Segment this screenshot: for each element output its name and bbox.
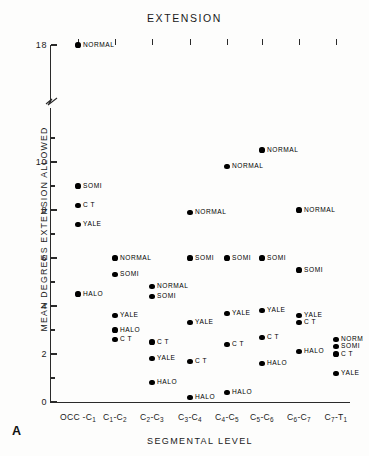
data-point-label: NORMAL <box>157 282 189 289</box>
data-point-label: NORMAL <box>83 41 115 48</box>
data-point-label: C T <box>232 340 244 347</box>
data-point-label: C T <box>304 318 316 325</box>
data-point-label: HALO <box>120 326 140 333</box>
data-point-label: HALO <box>195 393 215 400</box>
data-point-label: HALO <box>232 388 252 395</box>
data-point-marker <box>75 42 80 47</box>
data-point-marker <box>187 320 192 325</box>
y-axis-tick <box>51 353 57 354</box>
plot-area: 024681018 OCC -C1C1-C2C2-C3C3-C4C4-C5C5-… <box>50 38 350 403</box>
page-title: EXTENSION <box>0 12 369 24</box>
data-point-marker <box>187 395 192 400</box>
data-point-marker <box>296 320 301 325</box>
data-point-marker <box>333 371 338 376</box>
data-point-marker <box>149 294 154 299</box>
x-axis-tick-label: C5-C6 <box>250 412 274 422</box>
axis-break-icon <box>45 96 59 108</box>
data-point-label: YALE <box>195 318 214 325</box>
data-point-label: SOMI <box>120 270 139 277</box>
y-axis-tick-label: 18 <box>23 40 47 50</box>
y-axis-tick <box>51 257 57 258</box>
data-point-label: YALE <box>341 369 360 376</box>
data-point-marker <box>296 267 301 272</box>
y-axis-minor-tick <box>51 137 55 138</box>
data-point-marker <box>296 313 301 318</box>
data-point-marker <box>75 291 80 296</box>
x-axis-tick <box>152 39 153 45</box>
data-point-marker <box>112 337 117 342</box>
data-point-marker <box>149 380 154 385</box>
data-point-marker <box>112 255 117 260</box>
data-point-marker <box>333 351 338 356</box>
data-point-marker <box>259 335 264 340</box>
data-point-label: HALO <box>83 290 103 297</box>
data-point-marker <box>187 255 192 260</box>
y-axis-lower-segment <box>50 108 51 403</box>
data-point-label: C T <box>157 338 169 345</box>
data-point-marker <box>224 390 229 395</box>
panel-label: A <box>12 424 21 438</box>
y-axis-minor-tick <box>51 329 55 330</box>
data-point-label: NORMAL <box>120 254 152 261</box>
data-point-label: C T <box>267 333 279 340</box>
x-axis-tick-label: OCC -C1 <box>60 412 96 422</box>
data-point-label: HALO <box>267 359 287 366</box>
y-axis-minor-tick <box>51 233 55 234</box>
data-point-marker <box>333 344 338 349</box>
data-point-marker <box>75 183 80 188</box>
data-point-label: SOMI <box>341 342 360 349</box>
data-point-label: NORMAL <box>195 208 227 215</box>
x-axis-tick-label: C2-C3 <box>140 412 164 422</box>
data-point-label: HALO <box>304 347 324 354</box>
data-point-label: SOMI <box>157 292 176 299</box>
y-axis-title: MEAN DEGREES EXTENSION ALLOWED <box>39 126 49 331</box>
data-point-marker <box>149 339 154 344</box>
data-point-marker <box>112 327 117 332</box>
x-axis-tick-label: C6-C7 <box>287 412 311 422</box>
x-axis-tick <box>299 39 300 45</box>
y-axis-tick-label: 0 <box>23 397 47 407</box>
data-point-label: YALE <box>304 311 323 318</box>
data-point-label: SOMI <box>83 182 102 189</box>
data-point-label: SOMI <box>232 254 251 261</box>
data-point-label: NORMAL <box>267 146 299 153</box>
data-point-marker <box>149 356 154 361</box>
data-point-label: NORM <box>341 335 363 342</box>
data-point-marker <box>112 272 117 277</box>
data-point-label: YALE <box>120 311 139 318</box>
data-point-label: C T <box>341 350 353 357</box>
data-point-label: SOMI <box>267 254 286 261</box>
x-axis-tick-label: C7-T1 <box>325 412 348 422</box>
data-point-label: YALE <box>83 220 102 227</box>
data-point-marker <box>333 337 338 342</box>
x-axis-tick <box>336 39 337 45</box>
data-point-label: YALE <box>232 309 251 316</box>
data-point-label: SOMI <box>195 254 214 261</box>
data-point-label: SOMI <box>304 266 323 273</box>
x-axis-tick <box>227 39 228 45</box>
data-point-marker <box>259 255 264 260</box>
data-point-label: C T <box>195 357 207 364</box>
x-axis-tick-label: C1-C2 <box>103 412 127 422</box>
data-point-label: C T <box>120 335 132 342</box>
data-point-marker <box>296 207 301 212</box>
y-axis-minor-tick <box>51 377 55 378</box>
x-axis-tick-label: C3-C4 <box>178 412 202 422</box>
y-axis-upper-segment <box>50 45 51 102</box>
y-axis-tick <box>51 161 57 162</box>
data-point-label: C T <box>83 201 95 208</box>
data-point-marker <box>187 210 192 215</box>
data-point-marker <box>224 311 229 316</box>
x-axis-tick <box>115 39 116 45</box>
data-point-marker <box>75 203 80 208</box>
data-point-marker <box>75 222 80 227</box>
y-axis-minor-tick <box>51 185 55 186</box>
y-axis-minor-tick <box>51 281 55 282</box>
data-point-marker <box>296 349 301 354</box>
data-point-marker <box>187 359 192 364</box>
data-point-label: YALE <box>267 306 286 313</box>
data-point-label: NORMAL <box>304 206 336 213</box>
data-point-marker <box>149 284 154 289</box>
data-point-marker <box>112 313 117 318</box>
x-axis-tick <box>190 39 191 45</box>
